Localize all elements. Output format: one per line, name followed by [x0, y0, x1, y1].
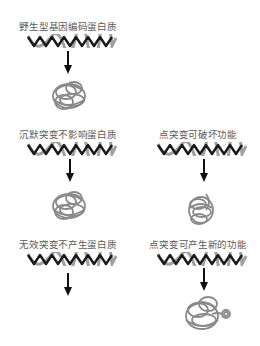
dna-helix-icon	[26, 142, 118, 156]
dna-helix-icon	[156, 142, 248, 156]
arrow-down-icon	[200, 159, 208, 183]
panel-label: 点突变可产生新的功能	[138, 237, 258, 251]
panel-label: 野生型基因编码蛋白质	[8, 19, 128, 33]
panel-label: 点突变可破坏功能	[138, 127, 258, 141]
arrow-down-icon	[200, 268, 208, 292]
protein-new-function-icon	[178, 292, 234, 334]
panel-label: 无效突变不产生蛋白质	[8, 237, 128, 251]
arrow-down-icon	[64, 273, 72, 297]
protein-normal-icon	[46, 186, 92, 224]
dna-helix-icon	[26, 252, 118, 266]
protein-normal-icon	[46, 76, 92, 114]
protein-misfolded-icon	[184, 190, 218, 228]
arrow-down-icon	[64, 51, 72, 75]
panel-label: 沉默突变不影响蛋白质	[8, 127, 128, 141]
dna-helix-icon	[156, 252, 248, 266]
dna-helix-icon	[26, 34, 118, 48]
arrow-down-icon	[66, 159, 74, 183]
